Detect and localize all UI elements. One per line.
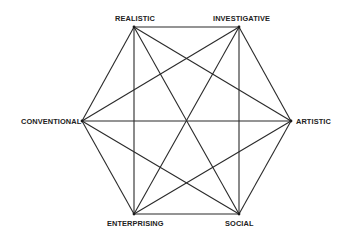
- vertex-investigative: [238, 26, 241, 29]
- label-social: SOCIAL: [225, 219, 254, 228]
- edge-a-s: [239, 121, 291, 214]
- edge-i-a: [239, 27, 291, 121]
- vertex-artistic: [290, 120, 293, 123]
- vertex-realistic: [133, 26, 136, 29]
- vertex-enterprising: [133, 213, 136, 216]
- edges-group: [82, 27, 291, 214]
- edge-a-e: [134, 121, 291, 214]
- vertex-social: [238, 213, 241, 216]
- edge-s-c: [82, 121, 239, 214]
- label-enterprising: ENTERPRISING: [107, 219, 164, 228]
- edge-r-c: [82, 27, 134, 121]
- edge-e-c: [82, 121, 134, 214]
- label-conventional: CONVENTIONAL: [21, 117, 82, 126]
- label-artistic: ARTISTIC: [296, 117, 331, 126]
- edge-i-c: [82, 27, 239, 121]
- label-realistic: REALISTIC: [115, 14, 155, 23]
- label-investigative: INVESTIGATIVE: [213, 14, 270, 23]
- riasec-hexagon-diagram: REALISTIC INVESTIGATIVE ARTISTIC SOCIAL …: [0, 0, 345, 239]
